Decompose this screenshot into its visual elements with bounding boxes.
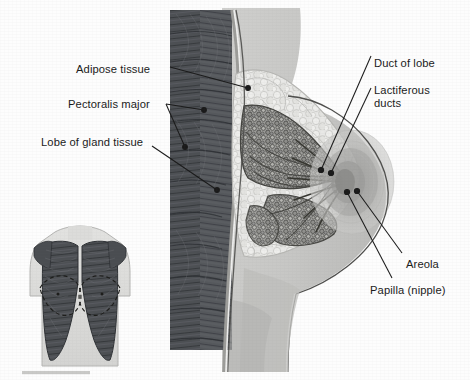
label-duct-of-lobe: Duct of lobe bbox=[374, 57, 435, 70]
label-adipose-tissue: Adipose tissue bbox=[76, 63, 150, 76]
label-pectoralis-major: Pectoralis major bbox=[68, 98, 150, 111]
label-lactiferous-ducts: Lactiferous ducts bbox=[374, 84, 430, 111]
label-lobe-of-gland-tissue: Lobe of gland tissue bbox=[41, 136, 143, 149]
label-areola: Areola bbox=[406, 258, 439, 271]
label-papilla-nipple: Papilla (nipple) bbox=[370, 284, 446, 297]
inset-neck bbox=[68, 226, 92, 240]
inset-baseline-bar bbox=[22, 371, 90, 374]
